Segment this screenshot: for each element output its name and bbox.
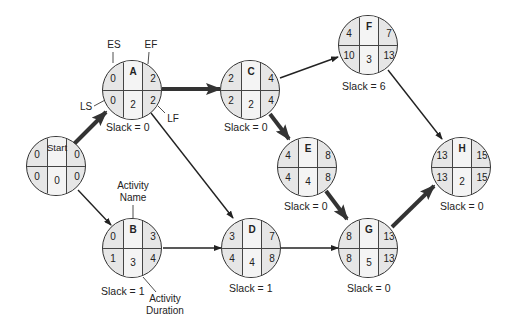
node-duration: 5 (359, 257, 379, 268)
es-label: ES (104, 39, 124, 51)
node-duration: 3 (359, 54, 379, 65)
node-ef: 13 (379, 231, 398, 242)
node-ef: 2 (143, 73, 162, 84)
node-ls: 10 (339, 50, 359, 61)
node-es: 13 (432, 150, 452, 161)
slack-h: Slack = 0 (440, 200, 483, 212)
edge-f-h (388, 70, 442, 139)
edge-start-b (78, 190, 111, 225)
node-d: D 3 7 4 8 4 (221, 218, 281, 278)
node-ef: 8 (318, 150, 337, 161)
node-es: 4 (278, 150, 298, 161)
ef-label: EF (141, 39, 161, 51)
node-name: C (241, 66, 261, 77)
node-es: 2 (221, 73, 241, 84)
node-lf: 4 (143, 253, 162, 264)
slack-d: Slack = 1 (229, 282, 272, 294)
activity-duration-line1: Activity (140, 293, 190, 305)
node-divider (278, 167, 336, 168)
edge-e-g (326, 191, 347, 219)
node-name: E (298, 143, 318, 154)
slack-g: Slack = 0 (347, 282, 390, 294)
node-es: 0 (103, 73, 123, 84)
ef-leader (148, 52, 149, 64)
node-ef: 4 (261, 73, 280, 84)
node-lf: 13 (379, 50, 398, 61)
node-divider (221, 90, 279, 91)
node-duration: 2 (452, 176, 472, 187)
node-duration: 3 (123, 257, 143, 268)
node-ls: 4 (222, 253, 242, 264)
node-lf: 8 (318, 172, 337, 183)
node-es: 0 (103, 231, 123, 242)
node-duration: 2 (123, 99, 143, 110)
node-e: E 4 8 4 8 4 (277, 137, 337, 197)
node-g: G 8 13 8 13 5 (338, 218, 398, 278)
node-c: C 2 4 2 4 2 (220, 60, 280, 120)
node-b: B 0 3 1 4 3 (102, 218, 162, 278)
ls-label: LS (76, 101, 96, 113)
node-lf: 4 (261, 95, 280, 106)
node-es: 8 (339, 231, 359, 242)
node-ls: 0 (27, 171, 47, 182)
node-ef: 3 (143, 231, 162, 242)
node-name: B (123, 224, 143, 235)
node-lf: 8 (262, 253, 281, 264)
node-ls: 1 (103, 253, 123, 264)
activity-name-label: Activity Name (108, 180, 158, 204)
activity-duration-label: Activity Duration (140, 293, 190, 317)
slack-c: Slack = 0 (224, 121, 267, 133)
node-a: A 0 2 0 2 2 (102, 60, 162, 120)
edge-c-e (270, 114, 289, 139)
node-duration: 4 (298, 176, 318, 187)
node-lf: 15 (472, 172, 491, 183)
node-es: 0 (27, 149, 47, 160)
slack-b: Slack = 1 (101, 285, 144, 297)
node-duration: 2 (241, 99, 261, 110)
node-lf: 0 (67, 171, 86, 182)
node-name: A (123, 66, 143, 77)
node-h: H 13 15 13 15 2 (431, 137, 491, 197)
node-ef: 0 (67, 149, 86, 160)
edge-g-h (392, 186, 434, 227)
lf-leader (158, 106, 165, 113)
activity-duration-line2: Duration (140, 305, 190, 317)
node-name: F (359, 21, 379, 32)
node-f: F 4 7 10 13 3 (338, 15, 398, 75)
node-ef: 7 (379, 28, 398, 39)
node-duration: 0 (47, 175, 67, 186)
node-es: 4 (339, 28, 359, 39)
node-ls: 2 (221, 95, 241, 106)
activity-name-line2: Name (108, 192, 158, 204)
edge-a-d (151, 113, 233, 218)
node-ls: 4 (278, 172, 298, 183)
lf-label: LF (163, 113, 183, 125)
node-divider (27, 166, 85, 167)
node-es: 3 (222, 231, 242, 242)
node-name: G (359, 224, 379, 235)
node-lf: 2 (143, 95, 162, 106)
node-divider (103, 248, 161, 249)
edge-start-a (73, 112, 106, 145)
activity-duration-leader (143, 277, 156, 292)
node-start: Start 0 0 0 0 0 (26, 136, 86, 196)
activity-name-line1: Activity (108, 180, 158, 192)
node-divider (222, 248, 280, 249)
node-ef: 15 (472, 150, 491, 161)
edge-c-f (280, 57, 338, 78)
node-name: D (242, 224, 262, 235)
node-ls: 8 (339, 253, 359, 264)
network-diagram: ES EF LS LF Activity Name Activity Durat… (0, 0, 510, 335)
node-name: H (452, 143, 472, 154)
node-divider (339, 248, 397, 249)
node-divider (339, 45, 397, 46)
node-lf: 13 (379, 253, 398, 264)
node-divider (432, 167, 490, 168)
slack-e: Slack = 0 (284, 200, 327, 212)
node-divider (103, 90, 161, 91)
slack-f: Slack = 6 (342, 80, 385, 92)
node-ls: 0 (103, 95, 123, 106)
slack-a: Slack = 0 (106, 121, 149, 133)
node-ls: 13 (432, 172, 452, 183)
node-duration: 4 (242, 257, 262, 268)
